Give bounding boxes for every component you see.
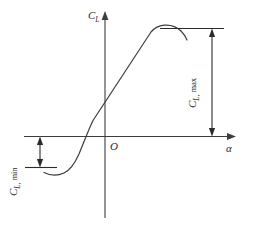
cl-max-label-sub: L,	[192, 94, 201, 101]
lift-curve-svg: CL,max CL,min CL α	[0, 0, 254, 230]
x-axis-group	[24, 133, 236, 140]
cl-max-label-group: CL,max	[186, 77, 201, 108]
lift-curve-line	[44, 25, 187, 175]
cl-max-annotation-group: CL,max	[160, 29, 224, 137]
svg-text:CL,min: CL,min	[7, 167, 22, 196]
cl-min-up-arrowhead	[37, 137, 43, 146]
cl-max-down-arrowhead	[209, 128, 215, 137]
origin-label: O	[110, 140, 118, 152]
svg-text:CL,max: CL,max	[186, 77, 201, 108]
cl-max-up-arrowhead	[209, 29, 215, 38]
lift-curve-figure: CL,max CL,min CL α	[0, 0, 254, 230]
cl-min-annotation-group: CL,min	[7, 137, 57, 197]
axis-labels-group: CL α O	[88, 9, 232, 154]
y-axis-label-sub: L	[94, 15, 99, 24]
x-axis-arrowhead	[227, 133, 236, 140]
y-axis-arrowhead	[102, 11, 109, 20]
x-axis-label-alpha: α	[226, 142, 232, 154]
y-axis-group	[102, 11, 109, 218]
cl-min-label-rest: min	[9, 167, 19, 181]
lift-curve-path-group	[44, 25, 187, 175]
cl-min-label-sub: L,	[13, 182, 22, 189]
cl-max-label-rest: max	[188, 77, 198, 92]
cl-min-label-group: CL,min	[7, 167, 22, 196]
cl-min-down-arrowhead	[37, 159, 43, 168]
y-axis-label-group: CL	[88, 9, 100, 24]
